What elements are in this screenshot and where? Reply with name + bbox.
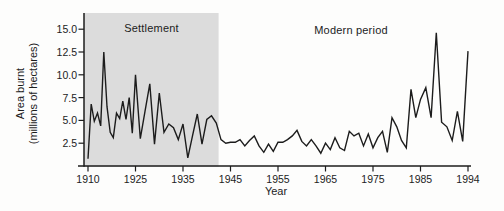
x-tick-label: 1945 <box>211 173 251 185</box>
x-tick-label: 1910 <box>68 173 108 185</box>
y-tick-label: 12.5 <box>41 46 77 58</box>
x-tick-label: 1955 <box>258 173 298 185</box>
y-axis-title: Area burnt (millions of hectares) <box>14 13 41 175</box>
modern-period-label: Modern period <box>281 24 421 36</box>
x-tick-label: 1975 <box>353 173 393 185</box>
y-axis-title-line2: (millions of hectares) <box>27 13 40 175</box>
y-tick-label: 7.5 <box>41 92 77 104</box>
x-tick-label: 1925 <box>116 173 156 185</box>
y-tick-label: 10.0 <box>41 69 77 81</box>
settlement-period-label: Settlement <box>84 22 219 34</box>
x-axis-title: Year <box>246 185 306 197</box>
fire-history-figure: Settlement Modern period Area burnt (mil… <box>0 0 504 211</box>
settlement-shaded-region <box>84 13 219 167</box>
x-tick-label: 1994 <box>448 173 488 185</box>
x-tick-label: 1965 <box>306 173 346 185</box>
y-tick-label: 2.5 <box>41 137 77 149</box>
x-tick-label: 1985 <box>401 173 441 185</box>
y-tick-label: 15.0 <box>41 23 77 35</box>
y-axis-title-line1: Area burnt <box>14 13 27 175</box>
x-tick-label: 1935 <box>163 173 203 185</box>
y-tick-label: 5.0 <box>41 114 77 126</box>
